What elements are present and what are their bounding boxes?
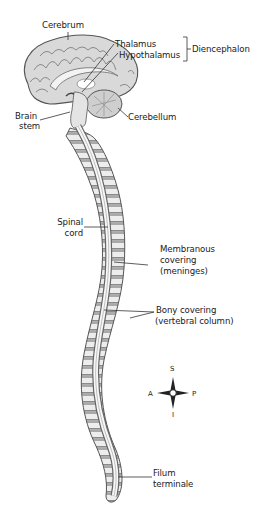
compass-inferior: I: [172, 410, 174, 420]
label-meninges-line2: covering: [160, 255, 196, 265]
label-filum-terminale-line2: terminale: [153, 479, 193, 489]
label-hypothalamus: Hypothalamus: [119, 50, 180, 60]
label-cerebrum: Cerebrum: [42, 20, 84, 30]
label-meninges-line1: Membranous: [160, 244, 215, 254]
label-brain-stem-line2: stem: [19, 121, 40, 131]
compass-posterior: P: [192, 389, 196, 399]
compass-anterior: A: [148, 389, 153, 399]
label-filum-terminale-line1: Filum: [153, 468, 175, 478]
cerebellum: [86, 90, 122, 118]
cns-illustration: [0, 0, 270, 516]
vertebral-column: [66, 128, 125, 502]
label-bony-covering-line2: (vertebral column): [155, 316, 233, 326]
cns-diagram: Cerebrum Thalamus Hypothalamus Diencepha…: [0, 0, 270, 516]
label-spinal-cord-line2: cord: [50, 228, 83, 238]
label-bony-covering-line1: Bony covering: [156, 305, 216, 315]
label-meninges-line3: (meninges): [160, 266, 208, 276]
label-diencephalon: Diencephalon: [192, 44, 250, 54]
label-cerebellum: Cerebellum: [128, 112, 176, 122]
compass-superior: S: [170, 364, 174, 374]
orientation-compass: [157, 377, 189, 409]
label-spinal-cord-line1: Spinal: [50, 217, 83, 227]
label-thalamus: Thalamus: [115, 39, 156, 49]
label-brain-stem-line1: Brain: [15, 111, 37, 121]
